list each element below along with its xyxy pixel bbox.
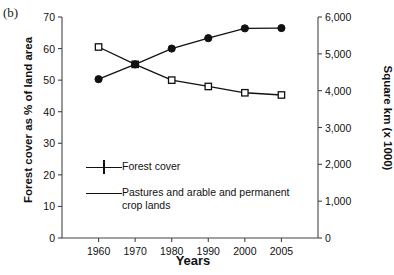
data-point-open-square: [205, 83, 211, 89]
data-point-open-square: [278, 92, 284, 98]
series-line-0: [99, 47, 282, 95]
data-point-open-square: [242, 90, 248, 96]
data-point-filled-circle: [95, 76, 102, 83]
legend-label-forest-cover: Forest cover: [122, 160, 180, 173]
legend-key-filled-circle: [86, 187, 122, 199]
legend-key-open-square: [86, 161, 122, 173]
legend-item-forest-cover: Forest cover: [86, 160, 290, 173]
data-point-open-square: [95, 44, 101, 50]
legend-label-pastures-croplands: Pastures and arable and permanent crop l…: [122, 186, 290, 212]
data-point-filled-circle: [132, 61, 139, 68]
data-point-filled-circle: [205, 35, 212, 42]
data-point-filled-circle: [241, 25, 248, 32]
chart-legend: Forest cover Pastures and arable and per…: [86, 160, 290, 225]
series-line-1: [99, 28, 282, 79]
data-point-open-square: [169, 77, 175, 83]
data-point-filled-circle: [168, 45, 175, 52]
data-point-filled-circle: [278, 24, 285, 31]
legend-item-pastures-croplands: Pastures and arable and permanent crop l…: [86, 186, 290, 212]
